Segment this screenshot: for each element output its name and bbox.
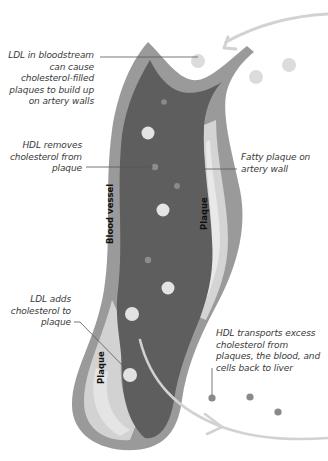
incoming-arrow-curve xyxy=(226,14,328,42)
hdl-particle-outside xyxy=(274,408,281,415)
annotation-line: can cause xyxy=(0,62,94,74)
annotation-hdl-transports: HDL transports excess cholesterol from p… xyxy=(216,328,328,374)
annotation-line: cells back to liver xyxy=(216,363,328,375)
ldl-particle-plaque-bump-lower xyxy=(123,368,137,382)
annotation-line: HDL removes xyxy=(0,140,82,152)
annotation-line: on artery walls xyxy=(0,96,94,108)
annotation-line: HDL transports excess xyxy=(216,328,328,340)
ldl-particle xyxy=(174,183,180,189)
ldl-particle-plaque-bump-upper xyxy=(125,307,139,321)
annotation-fatty-plaque: Fatty plaque on artery wall xyxy=(241,152,328,175)
hdl-particle-outside xyxy=(208,394,215,401)
ldl-particle-outside xyxy=(249,70,263,84)
ldl-particle xyxy=(157,204,170,217)
annotation-line: plaque xyxy=(0,163,82,175)
annotation-line: LDL adds xyxy=(1,294,71,306)
label-blood-vessel: Blood vessel xyxy=(105,184,115,244)
ldl-particle xyxy=(161,99,167,105)
annotation-ldl-bloodstream: LDL in bloodstream can cause cholesterol… xyxy=(0,50,94,108)
hdl-particle xyxy=(145,257,151,263)
annotation-line: plaques to build up xyxy=(0,85,94,97)
annotation-line: cholesterol from xyxy=(0,152,82,164)
annotation-line: Fatty plaque on xyxy=(241,152,328,164)
annotation-line: artery wall xyxy=(241,164,328,176)
annotation-line: plaques, the blood, and xyxy=(216,351,328,363)
annotation-line: cholesterol-filled xyxy=(0,73,94,85)
annotation-line: plaque xyxy=(1,317,71,329)
ldl-particle-outside xyxy=(282,58,296,72)
hdl-particle-outside xyxy=(246,393,253,400)
annotation-line: LDL in bloodstream xyxy=(0,50,94,62)
ldl-particle xyxy=(162,282,175,295)
ldl-particle-outside xyxy=(191,54,205,68)
annotation-line: cholesterol to xyxy=(1,306,71,318)
label-plaque-lower: Plaque xyxy=(96,351,106,384)
annotation-hdl-removes: HDL removes cholesterol from plaque xyxy=(0,140,82,175)
ldl-particle xyxy=(142,127,155,140)
label-plaque-upper: Plaque xyxy=(199,197,209,230)
annotation-ldl-adds: LDL adds cholesterol to plaque xyxy=(1,294,71,329)
annotation-line: cholesterol from xyxy=(216,340,328,352)
